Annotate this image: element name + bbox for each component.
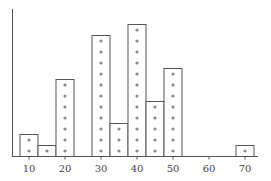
data-dot [171, 149, 174, 152]
data-dot [135, 116, 138, 119]
data-dot [135, 72, 138, 75]
data-dot [243, 149, 246, 152]
bar-rect [164, 69, 182, 157]
histogram-bar [92, 36, 110, 157]
data-dot [99, 149, 102, 152]
data-dot [99, 39, 102, 42]
data-dot [99, 105, 102, 108]
data-dot [27, 138, 30, 141]
data-dot [99, 61, 102, 64]
data-dot [171, 105, 174, 108]
histogram-bar [236, 146, 254, 157]
histogram-bar [164, 69, 182, 157]
data-dot [135, 94, 138, 97]
data-dot [63, 94, 66, 97]
data-dot [153, 105, 156, 108]
bars-group [20, 25, 254, 157]
histogram-bar [38, 146, 56, 157]
data-dot [63, 105, 66, 108]
data-dot [63, 149, 66, 152]
x-tick-label: 40 [131, 163, 144, 174]
x-tick-label: 60 [203, 163, 216, 174]
data-dot [99, 72, 102, 75]
x-tick-label: 70 [239, 163, 252, 174]
data-dot [63, 138, 66, 141]
histogram-bar [146, 102, 164, 157]
histogram-bar [110, 124, 128, 157]
x-tick-label: 20 [59, 163, 72, 174]
data-dot [135, 28, 138, 31]
data-dot [27, 149, 30, 152]
data-dot [99, 50, 102, 53]
data-dot [153, 116, 156, 119]
data-dot [171, 94, 174, 97]
data-dot [171, 138, 174, 141]
data-dot [171, 116, 174, 119]
histogram-bar [20, 135, 38, 157]
histogram-bar [128, 25, 146, 157]
data-dot [171, 72, 174, 75]
data-dot [135, 127, 138, 130]
data-dot [135, 83, 138, 86]
data-dot [171, 83, 174, 86]
data-dot [117, 127, 120, 130]
data-dot [135, 105, 138, 108]
data-dot [135, 138, 138, 141]
dot-histogram-chart: 10203040506070 [0, 0, 271, 181]
data-dot [63, 83, 66, 86]
data-dot [99, 116, 102, 119]
data-dot [99, 138, 102, 141]
data-dot [171, 127, 174, 130]
data-dot [45, 149, 48, 152]
data-dot [135, 39, 138, 42]
x-tick-label: 30 [95, 163, 108, 174]
data-dot [153, 127, 156, 130]
data-dot [153, 138, 156, 141]
histogram-bar [56, 80, 74, 157]
data-dot [135, 149, 138, 152]
data-dot [117, 138, 120, 141]
data-dot [117, 149, 120, 152]
data-dot [135, 61, 138, 64]
x-axis-ticks: 10203040506070 [23, 157, 252, 175]
bar-rect [20, 135, 38, 157]
data-dot [99, 83, 102, 86]
data-dot [63, 116, 66, 119]
x-tick-label: 10 [23, 163, 36, 174]
data-dot [99, 94, 102, 97]
data-dot [63, 127, 66, 130]
x-tick-label: 50 [167, 163, 180, 174]
data-dot [153, 149, 156, 152]
data-dot [99, 127, 102, 130]
data-dot [135, 50, 138, 53]
bar-rect [128, 25, 146, 157]
